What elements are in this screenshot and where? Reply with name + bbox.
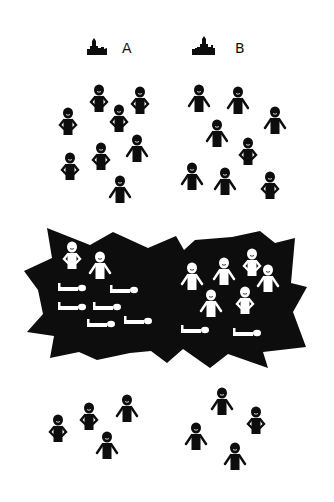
person-survivor-b <box>248 407 264 435</box>
person-before-b <box>182 163 202 191</box>
person-before-a <box>132 87 148 115</box>
castle-icon-a <box>87 38 107 55</box>
person-before-b <box>262 172 278 200</box>
person-survivor-a <box>97 432 117 460</box>
person-before-a <box>60 108 76 136</box>
person-before-a <box>127 135 147 163</box>
person-survivor-b <box>212 388 232 416</box>
illustration-canvas: A B <box>0 0 334 502</box>
person-before-b <box>215 168 235 196</box>
person-survivor-b <box>225 443 245 471</box>
group-label-b: B <box>235 40 245 56</box>
person-survivor-a <box>81 403 97 431</box>
conflict-zone-starburst <box>24 228 307 368</box>
person-survivor-a <box>50 415 66 443</box>
person-before-a <box>93 143 109 171</box>
person-before-b <box>228 87 248 115</box>
group-label-a: A <box>122 40 132 56</box>
person-before-a <box>111 105 127 133</box>
castle-icon-b <box>192 36 215 55</box>
person-before-a <box>62 153 78 181</box>
person-before-b <box>240 138 256 166</box>
person-before-b <box>189 85 209 113</box>
person-before-b <box>207 120 227 148</box>
person-before-a <box>91 85 107 113</box>
person-survivor-b <box>186 423 206 451</box>
person-survivor-a <box>117 395 137 423</box>
person-before-b <box>265 107 285 135</box>
person-before-a <box>110 176 130 204</box>
